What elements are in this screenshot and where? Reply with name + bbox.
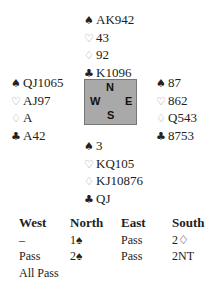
west-spades: ♠QJ1065 — [11, 75, 63, 93]
east-hand: ♠87 ♡862 ♢Q543 ♣8753 — [156, 75, 197, 145]
east-clubs: ♣8753 — [156, 128, 197, 146]
north-diamonds: ♢92 — [84, 47, 134, 65]
heart-icon: ♡ — [11, 94, 23, 111]
holding: 8753 — [168, 128, 194, 143]
holding: A — [23, 110, 32, 125]
holding: A42 — [23, 128, 45, 143]
club-icon: ♣ — [11, 129, 23, 146]
north-spades: ♠AK942 — [84, 12, 134, 30]
south-hand: ♠3 ♡KQ105 ♢KJ10876 ♣QJ — [84, 138, 143, 208]
holding: 3 — [96, 138, 103, 153]
west-clubs: ♣A42 — [11, 128, 63, 146]
holding: 862 — [168, 93, 188, 108]
bid: Pass — [121, 248, 172, 265]
holding: KJ10876 — [96, 173, 143, 188]
east-hearts: ♡862 — [156, 93, 197, 111]
header-south: South — [172, 215, 213, 232]
south-hearts: ♡KQ105 — [84, 156, 143, 174]
spade-icon: ♠ — [84, 13, 96, 30]
south-diamonds: ♢KJ10876 — [84, 173, 143, 191]
bid: 1♠ — [70, 232, 121, 249]
bid: – — [19, 232, 70, 249]
bid: Pass — [121, 232, 172, 249]
club-icon: ♣ — [156, 129, 168, 146]
holding: 87 — [168, 75, 181, 90]
auction-row: Pass 2♠ Pass 2NT — [19, 248, 213, 265]
auction-row: – 1♠ Pass 2♢ — [19, 232, 213, 249]
auction-row: All Pass — [19, 265, 213, 282]
holding: K1096 — [96, 65, 131, 80]
bid: 2♠ — [70, 248, 121, 265]
bid: All Pass — [19, 265, 99, 282]
spade-icon: ♠ — [11, 76, 23, 93]
south-clubs: ♣QJ — [84, 191, 143, 209]
north-hearts: ♡43 — [84, 30, 134, 48]
heart-icon: ♡ — [156, 94, 168, 111]
holding: AJ97 — [23, 93, 50, 108]
holding: QJ — [96, 191, 110, 206]
header-north: North — [70, 215, 121, 232]
bid: 2♢ — [172, 232, 213, 249]
holding: KQ105 — [96, 156, 134, 171]
header-east: East — [121, 215, 172, 232]
bid: 2NT — [172, 248, 213, 265]
east-diamonds: ♢Q543 — [156, 110, 197, 128]
diamond-icon: ♢ — [156, 111, 168, 128]
holding: 92 — [96, 47, 109, 62]
west-diamonds: ♢A — [11, 110, 63, 128]
east-spades: ♠87 — [156, 75, 197, 93]
compass-east: E — [125, 95, 132, 107]
heart-icon: ♡ — [84, 157, 96, 174]
spade-icon: ♠ — [84, 139, 96, 156]
compass-north: N — [106, 81, 114, 93]
compass-south: S — [107, 109, 114, 121]
holding: Q543 — [168, 110, 197, 125]
compass-box: N W E S — [84, 79, 137, 125]
club-icon: ♣ — [84, 192, 96, 209]
diamond-icon: ♢ — [84, 48, 96, 65]
compass-west: W — [90, 95, 100, 107]
header-west: West — [19, 215, 70, 232]
holding: 43 — [96, 30, 109, 45]
bid: Pass — [19, 248, 70, 265]
south-spades: ♠3 — [84, 138, 143, 156]
holding: QJ1065 — [23, 75, 63, 90]
holding: AK942 — [96, 12, 134, 27]
auction-header: West North East South — [19, 215, 213, 232]
west-hand: ♠QJ1065 ♡AJ97 ♢A ♣A42 — [11, 75, 63, 145]
north-hand: ♠AK942 ♡43 ♢92 ♣K1096 — [84, 12, 134, 82]
west-hearts: ♡AJ97 — [11, 93, 63, 111]
diamond-icon: ♢ — [11, 111, 23, 128]
spade-icon: ♠ — [156, 76, 168, 93]
auction-table: West North East South – 1♠ Pass 2♢ Pass … — [19, 215, 213, 281]
diamond-icon: ♢ — [84, 174, 96, 191]
heart-icon: ♡ — [84, 31, 96, 48]
